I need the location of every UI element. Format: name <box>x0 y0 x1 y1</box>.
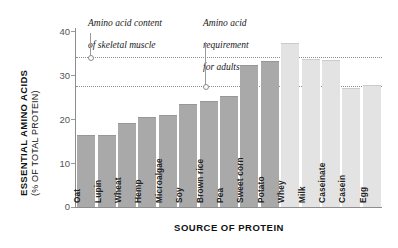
bar-label-oat: Oat <box>72 189 82 203</box>
y-axis-tick-labels: 40 30 20 10 0 <box>44 0 70 248</box>
bar-label-hemp: Hemp <box>133 179 143 203</box>
bar-top-edge <box>240 65 258 66</box>
bar-label-egg: Egg <box>358 187 368 203</box>
bar-label-potato: Potato <box>256 176 266 203</box>
y-axis-subtitle: (% OF TOTAL PROTEIN) <box>30 90 40 196</box>
bar-top-edge <box>363 85 381 86</box>
bar-label-milk: Milk <box>297 186 307 203</box>
bar-series: OatLupinWheatHempMicroalgaeSoyBrown rice… <box>76 28 382 207</box>
bar-label-soy: Soy <box>174 187 184 203</box>
bar-label-wrapper: Egg <box>363 202 381 203</box>
bar-label-brown-rice: Brown rice <box>195 159 205 203</box>
x-axis-title: SOURCE OF PROTEIN <box>76 222 382 233</box>
bar-top-edge <box>261 61 279 62</box>
bar-top-edge <box>159 115 177 116</box>
y-tick-10: 10 <box>46 159 70 169</box>
chart-container: ESSENTIAL AMINO ACIDS (% OF TOTAL PROTEI… <box>0 0 398 248</box>
bar-label-wheat: Wheat <box>113 177 123 203</box>
bar-whey[interactable]: Whey <box>281 43 299 207</box>
y-tick-30: 30 <box>46 71 70 81</box>
bar-label-whey: Whey <box>276 180 286 203</box>
bar-top-edge <box>322 60 340 61</box>
y-tick-0: 0 <box>46 202 70 212</box>
bar-label-sweet-corn: Sweet corn <box>235 157 245 203</box>
bar-top-edge <box>118 123 136 124</box>
bar-top-edge <box>77 135 95 136</box>
bar-label-microalgae: Microalgae <box>154 158 164 203</box>
bar-top-edge <box>98 135 116 136</box>
annotation-skeletal-muscle-line1: Amino acid content <box>88 18 162 28</box>
bar-top-edge <box>302 59 320 60</box>
annotation-adult-requirement-line1: Amino acid <box>203 18 247 28</box>
y-axis-title-group: ESSENTIAL AMINO ACIDS (% OF TOTAL PROTEI… <box>0 0 40 248</box>
bar-top-edge <box>281 43 299 44</box>
bar-label-casein: Casein <box>337 175 347 203</box>
bar-top-edge <box>200 101 218 102</box>
bar-top-edge <box>220 96 238 97</box>
y-tick-20: 20 <box>46 115 70 125</box>
y-axis-title: ESSENTIAL AMINO ACIDS <box>18 70 29 196</box>
x-axis-line <box>75 207 382 208</box>
y-tick-40: 40 <box>46 27 70 37</box>
bar-top-edge <box>138 117 156 118</box>
bar-egg[interactable]: Egg <box>363 85 381 207</box>
bar-top-edge <box>179 104 197 105</box>
bar-label-lupin: Lupin <box>93 180 103 203</box>
bar-top-edge <box>342 88 360 89</box>
bar-label-pea: Pea <box>215 188 225 203</box>
bar-label-caseinate: Caseinate <box>317 162 327 203</box>
